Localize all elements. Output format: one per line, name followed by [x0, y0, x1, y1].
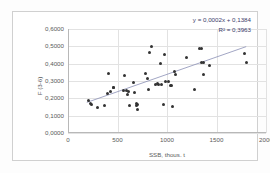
- scatter-point: [136, 103, 139, 106]
- scatter-point: [160, 83, 163, 86]
- y-axis-tick-label: 0,1000: [45, 113, 64, 119]
- scatter-point: [185, 56, 188, 59]
- chart-frame: F (3-6) SSB, thous. t 0,00000,10000,2000…: [12, 11, 258, 161]
- scatter-point: [245, 61, 248, 64]
- x-axis-tick-label: 500: [112, 137, 122, 143]
- scatter-point: [171, 105, 174, 108]
- y-axis-tick-label: 0,5000: [45, 43, 64, 49]
- scatter-point: [200, 47, 203, 50]
- scatter-point: [148, 51, 151, 54]
- scatter-point: [144, 72, 147, 75]
- scatter-point: [128, 104, 131, 107]
- scatter-point: [136, 108, 139, 111]
- x-axis-tick-label: 2000: [259, 137, 270, 143]
- scatter-point: [109, 90, 112, 93]
- scatter-point: [123, 74, 126, 77]
- gridline-vertical: [118, 29, 119, 133]
- gridline-vertical: [266, 29, 267, 133]
- x-axis-title: SSB, thous. t: [68, 151, 266, 158]
- scatter-point: [162, 103, 165, 106]
- scatter-point: [150, 45, 153, 48]
- gridline-horizontal: [68, 133, 266, 134]
- scatter-point: [170, 84, 173, 87]
- scatter-point: [106, 92, 109, 95]
- y-axis-tick-label: 0,2000: [45, 95, 64, 101]
- scatter-point: [147, 88, 150, 91]
- scatter-point: [126, 93, 129, 96]
- x-axis-tick-label: 1000: [160, 137, 174, 143]
- scatter-point: [90, 103, 93, 106]
- y-axis-tick-label: 0,6000: [45, 26, 64, 32]
- scatter-point: [208, 64, 211, 67]
- r-squared-value: R² = 0,3963: [193, 25, 251, 35]
- scatter-point: [112, 86, 115, 89]
- scatter-point: [159, 62, 162, 65]
- regression-annotation: y = 0,0002x + 0,1384 R² = 0,3963: [193, 15, 251, 34]
- scatter-point: [127, 90, 130, 93]
- scatter-point: [133, 91, 136, 94]
- chart-screenshot: F (3-6) SSB, thous. t 0,00000,10000,2000…: [0, 0, 270, 173]
- x-axis-tick-label: 0: [66, 137, 69, 143]
- scatter-point: [96, 106, 99, 109]
- y-axis-line: [68, 29, 69, 133]
- gridline-vertical: [217, 29, 218, 133]
- y-axis-tick-label: 0,3000: [45, 78, 64, 84]
- x-axis-tick-label: 1500: [210, 137, 224, 143]
- scatter-point: [243, 52, 246, 55]
- y-axis-tick-label: 0,0000: [45, 130, 64, 136]
- scatter-point: [193, 88, 196, 91]
- scatter-point: [146, 77, 149, 80]
- scatter-point: [163, 53, 166, 56]
- plot-area: 0,00000,10000,20000,30000,40000,50000,60…: [68, 29, 266, 133]
- scatter-point: [202, 61, 205, 64]
- y-axis-tick-label: 0,4000: [45, 61, 64, 67]
- scatter-point: [107, 72, 110, 75]
- scatter-point: [103, 104, 106, 107]
- x-axis-line: [68, 132, 266, 133]
- scatter-point: [174, 73, 177, 76]
- scatter-point: [132, 81, 135, 84]
- scatter-point: [202, 73, 205, 76]
- regression-equation: y = 0,0002x + 0,1384: [193, 15, 251, 25]
- y-axis-title: F (3-6): [36, 77, 43, 96]
